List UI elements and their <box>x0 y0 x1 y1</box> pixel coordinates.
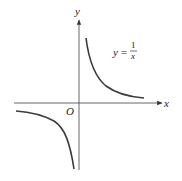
equation-equals: = <box>121 46 127 58</box>
x-axis-label: x <box>163 97 169 109</box>
origin-label: O <box>66 105 74 117</box>
equation-denominator: x <box>130 51 135 61</box>
y-axis-label: y <box>74 5 80 17</box>
hyperbola-diagram: x y O y = 1 x <box>0 0 182 181</box>
equation-numerator: 1 <box>131 40 136 50</box>
third-quadrant-branch <box>16 111 74 169</box>
equation-lhs: y <box>112 46 118 58</box>
equation-label: y = 1 x <box>112 40 137 61</box>
